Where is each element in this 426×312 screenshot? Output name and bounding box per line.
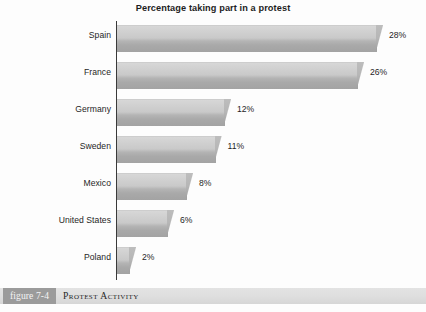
bar-row: Sweden11%	[0, 132, 426, 169]
bar-front-face	[117, 210, 168, 237]
category-label: Spain	[89, 30, 111, 40]
bar	[117, 62, 364, 88]
bar-front-face	[117, 99, 225, 126]
category-label: United States	[59, 215, 111, 225]
figure-caption-band: figure 7-4 Protest Activity	[0, 288, 426, 304]
category-label: Poland	[84, 252, 111, 262]
bar-row: Germany12%	[0, 95, 426, 132]
bar-value-label: 11%	[228, 141, 245, 151]
bar-row: Mexico8%	[0, 169, 426, 206]
bar-value-label: 26%	[370, 67, 387, 77]
category-label: Mexico	[83, 178, 111, 188]
figure-caption-title: Protest Activity	[63, 288, 139, 304]
bar-value-label: 28%	[389, 30, 406, 40]
category-label: Sweden	[80, 141, 111, 151]
bar	[117, 210, 174, 236]
bar-value-label: 2%	[142, 252, 154, 262]
bar-row: Spain28%	[0, 21, 426, 58]
bar-front-face	[117, 25, 377, 52]
chart-title: Percentage taking part in a protest	[0, 3, 426, 13]
bar-front-face	[117, 173, 187, 200]
category-label: Germany	[75, 104, 111, 114]
bar-row: United States6%	[0, 206, 426, 243]
bar-chart-plot-area: Spain28%France26%Germany12%Sweden11%Mexi…	[0, 18, 426, 282]
figure-number-tag: figure 7-4	[3, 288, 56, 304]
figure-7-4: Percentage taking part in a protest Spai…	[0, 0, 426, 312]
bar	[117, 247, 136, 273]
bar-value-label: 12%	[237, 104, 254, 114]
bar	[117, 25, 383, 51]
bar-row: France26%	[0, 58, 426, 95]
bar-front-face	[117, 62, 358, 89]
bar-front-face	[117, 136, 216, 163]
bar-row: Poland2%	[0, 243, 426, 280]
bar-value-label: 8%	[199, 178, 211, 188]
category-label: France	[84, 67, 111, 77]
bar	[117, 99, 231, 125]
bar-front-face	[117, 247, 130, 274]
bar	[117, 136, 222, 162]
bar	[117, 173, 193, 199]
bar-value-label: 6%	[180, 215, 192, 225]
